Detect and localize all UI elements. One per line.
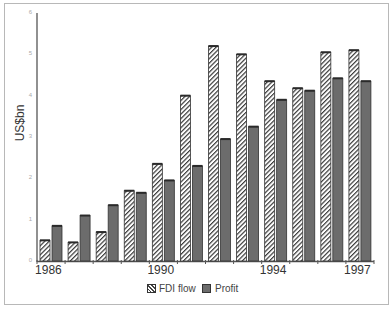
fdi-flow-bar-1990 [152,163,162,261]
y-tick-label: 2 [22,174,32,180]
y-tick-label: 0 [22,257,32,263]
profit-bar-1993 [249,126,259,261]
legend-swatch-fdi-flow [147,284,156,293]
fdi-flow-bar-1993 [237,53,247,261]
fdi-flow-bar-1988 [96,231,106,261]
profit-bar-1995 [305,90,315,261]
fdi-flow-bar-1994 [265,80,275,261]
fdi-flow-bar-1987 [68,241,78,261]
fdi-flow-bar-1997 [349,49,359,261]
profit-bar-1987 [80,215,90,261]
fdi-flow-bar-1992 [209,45,219,261]
x-tick-label: 1997 [344,263,371,277]
profit-bar-1992 [221,138,231,261]
fdi-flow-bar-1986 [40,239,50,261]
legend-label-profit: Profit [215,283,238,294]
profit-bar-1994 [277,99,287,261]
y-tick-label: 5 [22,50,32,56]
x-tick-label: 1990 [147,263,174,277]
legend-swatch-profit [202,284,211,293]
y-tick-label: 6 [22,9,32,15]
fdi-flow-bar-1991 [180,95,190,261]
y-axis-label: US$bn [13,101,27,145]
profit-bar-1996 [333,77,343,261]
fdi-flow-bar-1995 [293,87,303,261]
profit-bar-1991 [192,165,202,261]
x-tick-label: 1986 [35,263,62,277]
legend-label-fdi-flow: FDI flow [159,283,196,294]
fdi-flow-bar-1996 [321,51,331,261]
profit-bar-1986 [52,225,62,261]
bars-group [40,45,371,261]
profit-bar-1990 [164,179,174,261]
profit-bar-1989 [136,192,146,261]
profit-bar-1997 [361,80,371,261]
profit-bar-1988 [108,204,118,261]
fdi-flow-bar-1989 [124,190,134,261]
y-tick-label: 4 [22,92,32,98]
y-tick-label: 1 [22,216,32,222]
x-tick-label: 1994 [260,263,287,277]
